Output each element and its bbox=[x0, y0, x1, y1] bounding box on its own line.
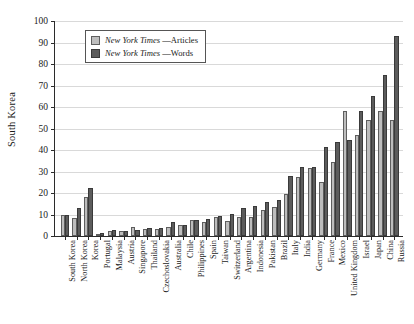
x-axis-label-cell: Portugal bbox=[93, 240, 105, 322]
bar-words bbox=[171, 222, 175, 236]
y-axis-title-text: South Korea bbox=[6, 92, 17, 147]
bar-words bbox=[77, 208, 81, 236]
x-axis-label-cell: Russia bbox=[387, 240, 399, 322]
y-axis-tick-label: 40 bbox=[39, 145, 49, 155]
legend-label-articles-italic: New York Times bbox=[105, 35, 160, 45]
bar-words bbox=[147, 228, 151, 236]
x-axis-label-cell: Chile bbox=[176, 240, 188, 322]
legend-label-words-roman: —Words bbox=[160, 48, 193, 58]
legend-label-articles: New York Times —Articles bbox=[105, 35, 198, 45]
x-axis-label-cell: Brazil bbox=[270, 240, 282, 322]
chart-legend: New York Times —Articles New York Times … bbox=[85, 30, 206, 63]
bar-group bbox=[283, 21, 295, 236]
bar-words bbox=[206, 219, 210, 236]
bar-group bbox=[341, 21, 353, 236]
bar-group bbox=[235, 21, 247, 236]
x-axis-label-cell: Japan bbox=[364, 240, 376, 322]
bar-words bbox=[194, 220, 198, 236]
bar-group bbox=[224, 21, 236, 236]
x-axis-label-cell: Philippines bbox=[187, 240, 199, 322]
x-axis-labels: South KoreaNorth KoreaKoreaPortugalMalay… bbox=[54, 240, 402, 322]
x-axis-label-cell: Australia bbox=[164, 240, 176, 322]
bar-words bbox=[277, 200, 281, 236]
bar-group bbox=[353, 21, 365, 236]
x-axis-label-cell: Mexico bbox=[329, 240, 341, 322]
bar-group bbox=[259, 21, 271, 236]
x-axis-label-cell: Indonesia bbox=[246, 240, 258, 322]
x-axis-label-cell: South Korea bbox=[58, 240, 70, 322]
x-axis-label-cell: Czechoslovakia bbox=[152, 240, 164, 322]
bar-words bbox=[394, 36, 398, 236]
bar-words bbox=[265, 202, 269, 236]
y-axis-tick-label: 20 bbox=[39, 188, 49, 198]
y-axis-tick-label: 70 bbox=[39, 81, 49, 91]
bar-words bbox=[65, 215, 69, 237]
bar-group bbox=[306, 21, 318, 236]
bar-group bbox=[212, 21, 224, 236]
bar-group bbox=[294, 21, 306, 236]
x-axis-tick-label: Russia bbox=[397, 240, 406, 262]
bar-words bbox=[347, 140, 351, 236]
y-axis-tick-label: 100 bbox=[34, 16, 48, 26]
bar-words bbox=[335, 142, 339, 236]
legend-label-words: New York Times —Words bbox=[105, 48, 193, 58]
x-axis-label-cell: Thailand bbox=[140, 240, 152, 322]
x-axis-label-cell: China bbox=[376, 240, 388, 322]
bar-words bbox=[88, 188, 92, 236]
bar-group bbox=[271, 21, 283, 236]
legend-swatch-words bbox=[91, 49, 100, 58]
bar-group bbox=[330, 21, 342, 236]
y-axis-tick bbox=[51, 236, 55, 237]
bar-words bbox=[383, 75, 387, 236]
legend-label-words-italic: New York Times bbox=[105, 48, 160, 58]
x-axis-label-cell: Pakistan bbox=[258, 240, 270, 322]
bar-words bbox=[371, 96, 375, 236]
y-axis-tick-label: 10 bbox=[39, 210, 49, 220]
x-axis-label-cell: Italy bbox=[282, 240, 294, 322]
x-axis-label-cell: Argentina bbox=[234, 240, 246, 322]
x-axis-label-cell: Taiwan bbox=[211, 240, 223, 322]
x-axis-label-cell: United Kingdom bbox=[340, 240, 352, 322]
legend-label-articles-roman: —Articles bbox=[160, 35, 198, 45]
x-axis-label-cell: Switzerland bbox=[223, 240, 235, 322]
y-axis-tick-label: 80 bbox=[39, 59, 49, 69]
x-axis-label-cell: Israel bbox=[352, 240, 364, 322]
bar-group bbox=[318, 21, 330, 236]
bar-words bbox=[312, 167, 316, 236]
bar-group bbox=[365, 21, 377, 236]
x-axis-label-cell: Singapore bbox=[129, 240, 141, 322]
legend-item-articles: New York Times —Articles bbox=[91, 35, 198, 45]
bar-group bbox=[59, 21, 71, 236]
bar-group bbox=[388, 21, 400, 236]
legend-item-words: New York Times —Words bbox=[91, 48, 198, 58]
x-axis-label-cell: North Korea bbox=[70, 240, 82, 322]
x-axis-label-cell: Korea bbox=[82, 240, 94, 322]
bar-words bbox=[253, 206, 257, 236]
bar-group bbox=[377, 21, 389, 236]
x-axis-label-cell: Spain bbox=[199, 240, 211, 322]
bar-words bbox=[159, 228, 163, 236]
bar-group bbox=[71, 21, 83, 236]
y-axis-tick-label: 60 bbox=[39, 102, 49, 112]
x-axis-label-cell: France bbox=[317, 240, 329, 322]
x-axis-label-cell: Austria bbox=[117, 240, 129, 322]
bar-words bbox=[359, 111, 363, 236]
y-axis-tick-label: 90 bbox=[39, 38, 49, 48]
chart-figure: South Korea 0102030405060708090100 South… bbox=[0, 0, 414, 324]
x-axis-label-cell: India bbox=[293, 240, 305, 322]
x-axis-label-cell: Malaysia bbox=[105, 240, 117, 322]
x-axis-label-cell: Germany bbox=[305, 240, 317, 322]
y-axis-tick-label: 0 bbox=[43, 231, 48, 241]
bar-words bbox=[230, 214, 234, 236]
bar-words bbox=[288, 176, 292, 236]
y-axis-tick-label: 50 bbox=[39, 124, 49, 134]
bar-words bbox=[218, 216, 222, 236]
bar-words bbox=[300, 167, 304, 236]
bar-words bbox=[324, 147, 328, 236]
bar-words bbox=[241, 208, 245, 236]
y-axis-tick-label: 30 bbox=[39, 167, 49, 177]
legend-swatch-articles bbox=[91, 36, 100, 45]
y-axis-title: South Korea bbox=[2, 0, 20, 238]
bar-group bbox=[247, 21, 259, 236]
bar-words bbox=[183, 225, 187, 236]
